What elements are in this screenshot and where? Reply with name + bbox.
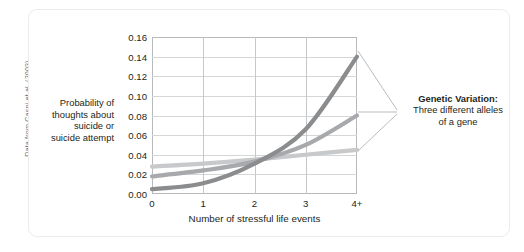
- y-tick-label: 0.08: [128, 110, 147, 121]
- series-line-allele-mid: [152, 116, 357, 177]
- y-axis-title-line-4: suicide attempt: [24, 132, 114, 144]
- callout-line-3: of a gene: [399, 116, 517, 127]
- callout-heading: Genetic Variation:: [399, 93, 517, 104]
- y-tick-label: 0.14: [128, 51, 147, 62]
- y-tick-label: 0.16: [128, 32, 147, 43]
- y-tick-label: 0.00: [128, 189, 147, 200]
- y-tick-label: 0.06: [128, 130, 147, 141]
- y-tick-label: 0.12: [128, 71, 147, 82]
- x-tick-label: 3: [303, 198, 308, 209]
- x-tick-label: 0: [149, 198, 154, 209]
- plot-area: 0.000.020.040.060.080.100.120.140.16 012…: [152, 37, 357, 194]
- figure-root: Data from Caspi et al. (2003) Probabilit…: [0, 0, 524, 252]
- y-tick-label: 0.10: [128, 90, 147, 101]
- x-tick-label: 1: [201, 198, 206, 209]
- series-line-allele-dark: [152, 57, 357, 189]
- y-axis-title-line-1: Probability of: [24, 97, 114, 109]
- y-tick-label: 0.04: [128, 149, 147, 160]
- x-tick-label: 4+: [352, 198, 363, 209]
- x-tick-label: 2: [252, 198, 257, 209]
- y-axis-title-line-2: thoughts about: [24, 109, 114, 121]
- y-axis-title: Probability of thoughts about suicide or…: [24, 97, 114, 143]
- y-tick-label: 0.02: [128, 169, 147, 180]
- callout-text: Genetic Variation: Three different allel…: [399, 93, 517, 127]
- x-axis-title: Number of stressful life events: [152, 213, 357, 224]
- series-lines: [152, 37, 357, 194]
- y-axis-title-line-3: suicide or: [24, 120, 114, 132]
- callout-line-2: Three different alleles: [399, 104, 517, 115]
